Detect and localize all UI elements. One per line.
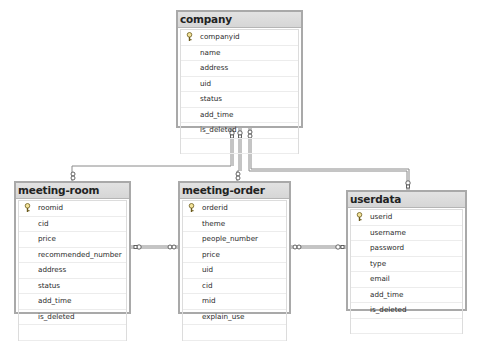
column-row[interactable]: address [181,61,298,77]
column-name: address [38,265,66,274]
column-row[interactable]: cid [19,217,126,233]
table-company[interactable]: company companyid name address uid statu… [176,10,303,128]
column-row[interactable]: email [351,272,462,288]
column-name: userid [370,212,392,221]
column-row[interactable]: userid [351,210,462,226]
column-row[interactable]: price [183,248,286,264]
column-list: userid username password type email add_… [350,209,463,334]
column-row[interactable]: password [351,241,462,257]
column-row[interactable]: cid [183,279,286,295]
primary-key-icon [355,210,363,224]
column-name: uid [200,79,211,88]
table-meeting-room[interactable]: meeting-room roomid cid price recommende… [14,181,131,314]
column-name: theme [202,219,225,228]
table-title: meeting-order [180,183,289,199]
column-row[interactable]: add_time [19,294,126,310]
column-row[interactable]: mid [183,294,286,310]
infinity-endpoint-icon [71,172,75,180]
primary-key-icon [185,30,193,44]
empty-row [19,325,126,341]
column-name: people_number [202,234,258,243]
infinity-endpoint-icon [293,245,301,249]
column-row[interactable]: uid [183,263,286,279]
column-row[interactable]: add_time [181,108,298,124]
column-name: uid [202,265,213,274]
column-name: password [370,243,404,252]
column-row[interactable]: username [351,226,462,242]
column-name: orderid [202,203,228,212]
column-row[interactable]: theme [183,217,286,233]
table-meeting-order[interactable]: meeting-order orderid theme people_numbe… [178,181,291,314]
column-list: roomid cid price recommended_number addr… [18,200,127,341]
key-endpoint-icon [406,181,410,188]
infinity-endpoint-icon [236,172,240,180]
column-name: price [202,250,220,259]
column-row[interactable]: add_time [351,288,462,304]
column-row[interactable]: is_deleted [19,310,126,326]
column-name: status [200,94,222,103]
empty-row [351,319,462,335]
column-name: cid [202,281,213,290]
column-row[interactable]: status [19,279,126,295]
column-name: cid [38,219,49,228]
column-row[interactable]: uid [181,77,298,93]
table-title: meeting-room [16,183,129,199]
table-userdata[interactable]: userdata userid username password type e… [346,190,467,311]
column-row[interactable]: name [181,46,298,62]
column-name: add_time [370,290,403,299]
column-name: roomid [38,203,63,212]
primary-key-icon [187,201,195,215]
column-row[interactable]: people_number [183,232,286,248]
column-name: add_time [200,110,233,119]
column-name: address [200,63,228,72]
column-name: add_time [38,296,71,305]
key-endpoint-icon [134,245,141,249]
column-row[interactable]: roomid [19,201,126,217]
key-endpoint-icon [336,245,344,249]
column-name: price [38,234,56,243]
column-name: name [200,48,220,57]
empty-row [183,325,286,341]
table-title: company [178,12,301,28]
column-name: is_deleted [370,305,407,314]
column-name: status [38,281,60,290]
column-name: mid [202,296,216,305]
column-row[interactable]: explain_use [183,310,286,326]
column-list: companyid name address uid status add_ti… [180,29,299,154]
column-list: orderid theme people_number price uid ci… [182,200,287,341]
column-row[interactable]: companyid [181,30,298,46]
column-row[interactable]: status [181,92,298,108]
column-name: username [370,228,406,237]
empty-row [181,139,298,155]
column-name: recommended_number [38,250,122,259]
column-name: is_deleted [38,312,75,321]
column-name: explain_use [202,312,244,321]
table-title: userdata [348,192,465,208]
column-row[interactable]: orderid [183,201,286,217]
column-row[interactable]: is_deleted [181,123,298,139]
infinity-endpoint-icon [168,245,176,249]
column-name: is_deleted [200,125,237,134]
column-name: type [370,259,386,268]
column-row[interactable]: address [19,263,126,279]
column-row[interactable]: recommended_number [19,248,126,264]
column-name: email [370,274,390,283]
column-name: companyid [200,32,240,41]
column-row[interactable]: is_deleted [351,303,462,319]
primary-key-icon [23,201,31,215]
column-row[interactable]: price [19,232,126,248]
column-row[interactable]: type [351,257,462,273]
